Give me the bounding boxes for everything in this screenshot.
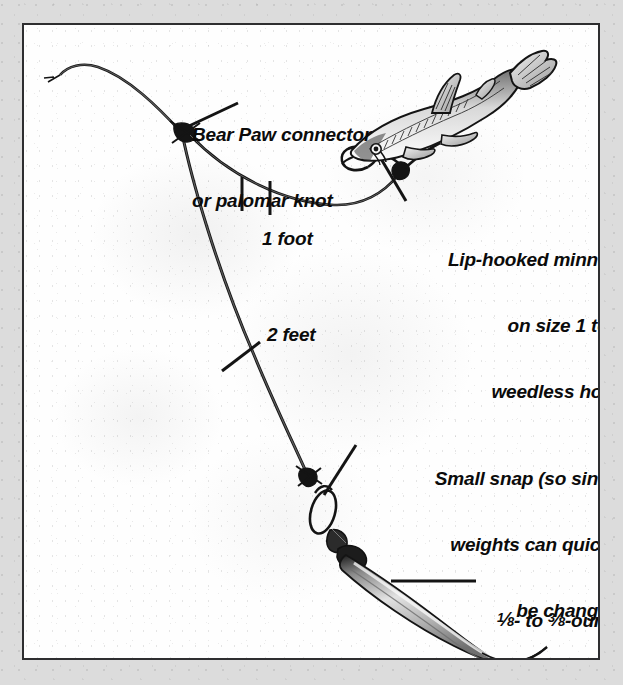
callout-connector-line1: Bear Paw connector	[192, 124, 371, 146]
callout-minnow-line3: weedless hook	[402, 381, 600, 403]
callout-minnow-line1: Lip-hooked minnow	[402, 249, 600, 271]
callout-one-foot: 1 foot	[262, 228, 313, 250]
callout-minnow: Lip-hooked minnow on size 1 to 2 weedles…	[402, 205, 600, 447]
fraction-low-denominator: 8	[507, 614, 514, 629]
callout-sinker-suffix: - to	[514, 610, 543, 631]
fraction-three-eighths: 3⁄8	[548, 608, 565, 631]
fraction-high-numerator: 3	[548, 610, 555, 625]
fraction-high-denominator: 8	[558, 614, 565, 629]
snap-assembly	[296, 466, 347, 552]
callout-minnow-line2: on size 1 to 2	[402, 315, 600, 337]
callout-connector-line2: or palomar knot	[192, 190, 371, 212]
callout-snap-line1: Small snap (so sinker	[354, 468, 600, 490]
callout-two-feet: 2 feet	[267, 324, 315, 346]
callout-sinker: 1⁄8- to 3⁄8-ounce Lindy No-Snagg sinker	[484, 565, 600, 660]
fraction-low-numerator: 1	[497, 610, 504, 625]
fraction-one-eighth: 1⁄8	[497, 608, 514, 631]
callout-sinker-tail: -ounce	[565, 610, 600, 631]
figure-panel: Bear Paw connector or palomar knot Lip-h…	[22, 23, 600, 660]
figure-canvas: Bear Paw connector or palomar knot Lip-h…	[0, 0, 623, 685]
callout-snap-line2: weights can quickly	[354, 534, 600, 556]
callout-sinker-line1: 1⁄8- to 3⁄8-ounce	[484, 609, 600, 632]
minnow-baitfish	[342, 51, 556, 165]
